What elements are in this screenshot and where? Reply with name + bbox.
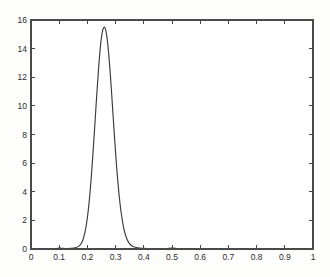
x-tick-label: 1 (311, 252, 316, 262)
x-tick-label: 0.9 (279, 252, 291, 262)
x-tick-label: 0.3 (110, 252, 122, 262)
y-tick-label: 10 (18, 101, 28, 111)
x-tick-label: 0.7 (222, 252, 234, 262)
y-tick-label: 12 (18, 72, 28, 82)
y-tick-label: 4 (22, 187, 27, 197)
y-tick-label: 6 (22, 158, 27, 168)
distribution-plot: 00.10.20.30.40.50.60.70.80.91 0246810121… (0, 0, 330, 277)
y-tick-label: 0 (22, 244, 27, 254)
y-tick-label: 14 (18, 44, 28, 54)
x-tick-label: 0.5 (166, 252, 178, 262)
plot-area-background (31, 20, 313, 249)
x-tick-label: 0 (29, 252, 34, 262)
y-tick-label: 2 (22, 215, 27, 225)
x-tick-label: 0.8 (251, 252, 263, 262)
x-tick-label: 0.2 (81, 252, 93, 262)
x-tick-label: 0.1 (53, 252, 65, 262)
figure-container: 00.10.20.30.40.50.60.70.80.91 0246810121… (0, 0, 330, 277)
y-tick-label: 16 (18, 15, 28, 25)
x-tick-label: 0.6 (194, 252, 206, 262)
x-tick-label: 0.4 (138, 252, 150, 262)
y-tick-label: 8 (22, 130, 27, 140)
